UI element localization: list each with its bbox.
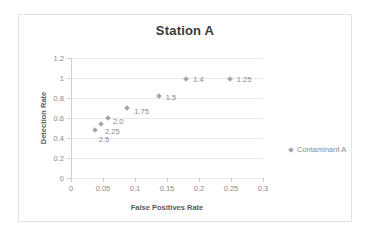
data-point-label: 1.4 [193,75,203,84]
y-axis-tick [67,118,71,119]
x-axis-title: False Positives Rate [131,203,204,212]
data-point-marker [227,76,233,82]
x-axis-tick-label: 0.25 [224,184,239,193]
data-point-marker [92,127,98,133]
y-axis-tick-label: 0 [60,174,64,183]
x-axis-tick [263,178,264,182]
y-axis-tick [67,98,71,99]
x-axis-tick [135,178,136,182]
data-point-label: 1.25 [237,75,252,84]
data-point-label: 2.0 [113,116,123,125]
y-axis-tick-label: 0.8 [54,94,64,103]
x-axis-tick-label: 0.1 [130,184,140,193]
y-axis-tick-label: 1 [60,74,64,83]
chart-container: Station A Detection Rate False Positives… [18,14,352,222]
data-point-marker [105,115,111,121]
y-axis-line [71,58,72,178]
x-axis-tick-label: 0.2 [194,184,204,193]
data-point-marker [124,105,130,111]
y-axis-tick [67,138,71,139]
gridline [71,118,263,119]
x-axis-tick [231,178,232,182]
x-axis-tick-label: 0 [69,184,73,193]
x-axis-tick [103,178,104,182]
plot-area: 00.20.40.60.811.2 00.050.10.150.20.250.3… [71,58,263,178]
data-point-marker [98,121,104,127]
legend-marker-icon [288,147,294,153]
y-axis-tick [67,158,71,159]
x-axis-tick-label: 0.05 [96,184,111,193]
y-axis-tick-label: 0.2 [54,154,64,163]
y-axis-tick-label: 1.2 [54,54,64,63]
gridline [71,158,263,159]
data-point-label: 2.5 [99,135,109,144]
data-point-label: 1.5 [166,92,176,101]
chart-title: Station A [19,23,351,38]
data-point-label: 1.75 [134,107,149,116]
data-point-label: 2.25 [105,126,120,135]
x-axis-tick-label: 0.15 [160,184,175,193]
x-axis-tick-label: 0.3 [258,184,268,193]
y-axis-title: Detection Rate [39,92,48,145]
y-axis-tick [67,78,71,79]
y-axis-tick-label: 0.6 [54,114,64,123]
gridline [71,58,263,59]
legend: Contaminant A [289,145,346,154]
gridline [71,78,263,79]
x-axis-tick [167,178,168,182]
legend-label: Contaminant A [297,145,346,154]
x-axis-tick [71,178,72,182]
y-axis-tick-label: 0.4 [54,134,64,143]
y-axis-tick [67,58,71,59]
x-axis-tick [199,178,200,182]
